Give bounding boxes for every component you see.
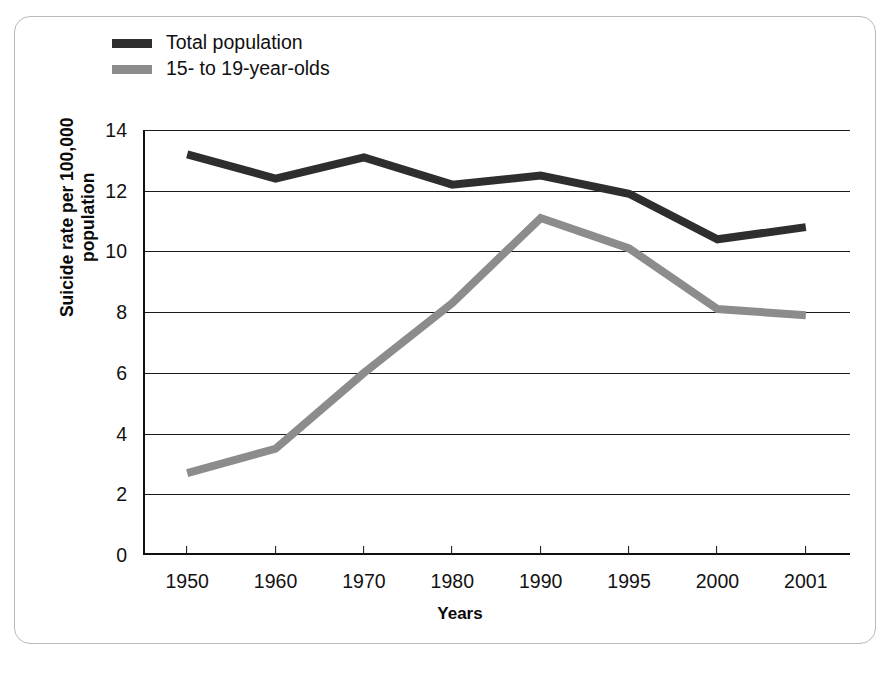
- y-tick-label-4: 4: [116, 422, 127, 445]
- legend-swatch-teens: [112, 65, 152, 74]
- y-tick-label-2: 2: [116, 483, 127, 506]
- legend-label-teens: 15- to 19-year-olds: [166, 59, 330, 79]
- y-axis-title-line-1: Suicide rate per 100,000: [57, 57, 78, 377]
- x-tick-label-1970: 1970: [342, 570, 385, 593]
- y-tick-label-14: 14: [105, 119, 127, 142]
- legend-item-teens: 15- to 19-year-olds: [112, 56, 442, 82]
- legend-label-total-population: Total population: [166, 33, 303, 53]
- x-tick-label-1960: 1960: [254, 570, 297, 593]
- legend-item-total-population: Total population: [112, 30, 442, 56]
- y-tick-label-8: 8: [116, 301, 127, 324]
- legend-swatch-total-population: [112, 39, 152, 48]
- x-tick-label-1990: 1990: [519, 570, 562, 593]
- y-tick-label-0: 0: [116, 544, 127, 567]
- data-lines-group: [143, 130, 850, 555]
- x-axis-title-text: Years: [437, 604, 482, 624]
- chart-figure: Total population 15- to 19-year-olds Sui…: [0, 0, 892, 674]
- y-axis-title-line-2: population: [78, 57, 99, 377]
- x-axis-title: Years: [0, 604, 892, 624]
- x-tick-label-1980: 1980: [431, 570, 474, 593]
- y-tick-label-12: 12: [105, 179, 127, 202]
- series-line-teens: [187, 218, 806, 473]
- y-axis-title: Suicide rate per 100,000 population: [57, 57, 100, 377]
- chart-legend: Total population 15- to 19-year-olds: [112, 30, 442, 82]
- x-tick-label-1995: 1995: [607, 570, 650, 593]
- y-tick-label-10: 10: [105, 240, 127, 263]
- series-line-total-population: [187, 154, 806, 239]
- y-tick-label-6: 6: [116, 361, 127, 384]
- x-tick-label-2001: 2001: [784, 570, 827, 593]
- plot-area: 02468101214 1950196019701980199019952000…: [143, 130, 850, 555]
- x-tick-label-2000: 2000: [696, 570, 739, 593]
- x-tick-label-1950: 1950: [165, 570, 208, 593]
